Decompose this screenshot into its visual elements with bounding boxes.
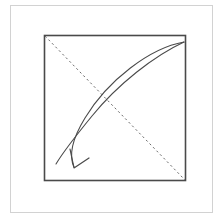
figure-container: Square with diagonal crease and curved f… (0, 0, 223, 223)
figure-background (0, 0, 223, 223)
geometry-figure: Square with diagonal crease and curved f… (0, 0, 223, 223)
